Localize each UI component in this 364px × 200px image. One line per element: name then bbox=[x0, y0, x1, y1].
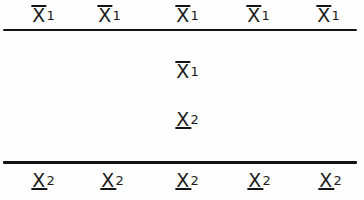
symbol-xunder2-bottom-1: X2 bbox=[31, 171, 54, 190]
symbol-xunder2-bottom-2: X2 bbox=[100, 171, 123, 190]
x-base-glyph: X bbox=[31, 171, 46, 190]
symbol-xbar1-top-3: X1 bbox=[175, 6, 198, 25]
x-index-label: 2 bbox=[190, 173, 198, 188]
x-base-glyph: X bbox=[175, 62, 190, 81]
x-base-glyph: X bbox=[97, 6, 112, 25]
x-index-label: 2 bbox=[262, 173, 270, 188]
symbol-xunder2-bottom-4: X2 bbox=[247, 171, 270, 190]
x-index-label: 2 bbox=[46, 173, 54, 188]
symbol-xbar1-middle: X1 bbox=[175, 62, 198, 81]
x-index-label: 1 bbox=[46, 8, 54, 23]
symbol-xunder2-middle: X2 bbox=[175, 110, 198, 129]
upper-horizontal-rule bbox=[3, 29, 357, 31]
symbol-xunder2-bottom-5: X2 bbox=[318, 171, 341, 190]
x-index-label: 1 bbox=[190, 64, 198, 79]
symbol-xbar1-top-5: X1 bbox=[316, 6, 339, 25]
lower-horizontal-rule bbox=[3, 161, 357, 164]
x-base-glyph: X bbox=[31, 6, 46, 25]
x-base-glyph: X bbox=[316, 6, 331, 25]
x-base-glyph: X bbox=[175, 110, 190, 129]
symbol-xbar1-top-2: X1 bbox=[97, 6, 120, 25]
x-index-label: 2 bbox=[333, 173, 341, 188]
x-base-glyph: X bbox=[175, 6, 190, 25]
x-base-glyph: X bbox=[246, 6, 261, 25]
x-index-label: 1 bbox=[261, 8, 269, 23]
symbol-xunder2-bottom-3: X2 bbox=[175, 171, 198, 190]
symbol-xbar1-top-4: X1 bbox=[246, 6, 269, 25]
symbol-xbar1-top-1: X1 bbox=[31, 6, 54, 25]
x-index-label: 2 bbox=[115, 173, 123, 188]
x-index-label: 1 bbox=[112, 8, 120, 23]
x-base-glyph: X bbox=[318, 171, 333, 190]
x-base-glyph: X bbox=[175, 171, 190, 190]
diagram-canvas: X1 X1 X1 X1 X1 X1 X2 X2 X2 X2 X2 X2 bbox=[0, 0, 364, 200]
x-base-glyph: X bbox=[100, 171, 115, 190]
x-base-glyph: X bbox=[247, 171, 262, 190]
x-index-label: 1 bbox=[331, 8, 339, 23]
x-index-label: 1 bbox=[190, 8, 198, 23]
x-index-label: 2 bbox=[190, 112, 198, 127]
